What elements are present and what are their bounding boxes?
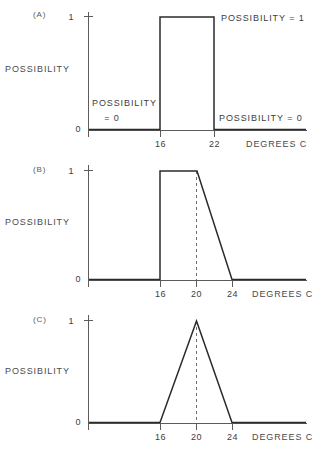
panel-a-ytick-0-label: 0 [75, 124, 81, 134]
panel-a-annotation-possibility-one: POSSIBILITY = 1 [221, 13, 305, 23]
panel-c-xtick-24-label: 24 [227, 432, 238, 442]
panel-b-x-axis-label: DEGREES C [252, 289, 313, 299]
panel-c-tag: (C) [33, 315, 47, 324]
panel-c-ytick-1-label: 1 [68, 316, 74, 326]
panel-c-data-curve [89, 321, 306, 423]
panel-c-xtick-20-label: 20 [191, 432, 202, 442]
panel-c-xtick-16-label: 16 [155, 432, 166, 442]
panel-a-annotation-possibility-zero: POSSIBILITY = 0 [219, 113, 303, 123]
panel-c-x-axis-label: DEGREES C [252, 432, 313, 442]
panel-a-annotation-left-line1: POSSIBILITY [92, 98, 157, 108]
panel-b-xtick-16-label: 16 [155, 289, 166, 299]
panel-b-ytick-0-label: 0 [75, 274, 81, 284]
panel-b-data-curve [89, 171, 306, 280]
panel-c-y-axis-label: POSSIBILITY [5, 366, 70, 376]
chart-panel-b: (B) POSSIBILITY 1 0 16 20 24 DEGREES C [0, 155, 316, 305]
panel-a-xtick-22-label: 22 [209, 139, 220, 149]
chart-panel-a: (A) POSSIBILITY 1 0 16 22 DEGREES C POSS… [0, 0, 316, 155]
panel-b-ytick-1-label: 1 [68, 166, 74, 176]
panel-a-xtick-16-label: 16 [155, 139, 166, 149]
panel-b-xtick-20-label: 20 [191, 289, 202, 299]
panel-b-y-axis-label: POSSIBILITY [5, 217, 70, 227]
panel-a-x-axis-label: DEGREES C [246, 139, 307, 149]
panel-a-annotation-left-line2: = 0 [104, 113, 119, 123]
panel-c-ytick-0-label: 0 [75, 417, 81, 427]
panel-a-ytick-1-label: 1 [68, 12, 74, 22]
panel-a-y-axis-label: POSSIBILITY [5, 64, 70, 74]
chart-panel-c: (C) POSSIBILITY 1 0 16 20 24 DEGREES C [0, 305, 316, 451]
panel-b-tag: (B) [33, 165, 46, 174]
panel-a-tag: (A) [33, 10, 46, 19]
figure-container: (A) POSSIBILITY 1 0 16 22 DEGREES C POSS… [0, 0, 316, 451]
panel-b-xtick-24-label: 24 [227, 289, 238, 299]
